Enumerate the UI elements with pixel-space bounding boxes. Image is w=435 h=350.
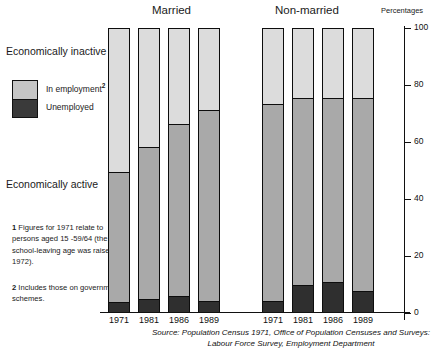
segment-unemployed: [353, 291, 373, 312]
segment-in-employment: [199, 110, 219, 312]
y-tick-0: [404, 313, 411, 314]
legend-label-in-employment: In employment: [46, 84, 102, 94]
legend-swatch-unemployed: [13, 99, 37, 117]
y-tick-label-100: 100: [414, 22, 428, 32]
bar-married-1971: [108, 28, 130, 313]
segment-in-employment: [109, 172, 129, 312]
segment-unemployed: [263, 301, 283, 312]
label-economically-active: Economically active: [6, 178, 98, 190]
x-tick-label-3: 1989: [192, 315, 226, 325]
segment-in-employment: [353, 98, 373, 312]
y-tick-label-0: 0: [414, 307, 419, 317]
y-tick-60: [404, 142, 411, 143]
legend-swatch-in-employment: [13, 81, 37, 99]
segment-unemployed: [169, 296, 189, 312]
legend-item-in-employment: In employment2: [46, 82, 105, 94]
y-tick-label-20: 20: [414, 250, 423, 260]
y-tick-80: [404, 85, 411, 86]
y-tick-label-80: 80: [414, 79, 423, 89]
segment-unemployed: [323, 282, 343, 312]
x-tick-label-2: 1986: [162, 315, 196, 325]
segment-unemployed: [199, 301, 219, 312]
segment-in-employment: [169, 124, 189, 312]
segment-in-employment: [293, 98, 313, 312]
chart-container: Married Non-married Percentages Economic…: [0, 0, 435, 350]
x-tick-label-6: 1986: [316, 315, 350, 325]
source-note: Source: Population Census 1971, Office o…: [148, 328, 434, 349]
x-tick-label-5: 1981: [286, 315, 320, 325]
y-tick-label-40: 40: [414, 193, 423, 203]
segment-unemployed: [139, 299, 159, 312]
segment-in-employment: [139, 147, 159, 312]
bar-non-married-1981: [292, 28, 314, 313]
y-tick-label-60: 60: [414, 136, 423, 146]
bar-married-1986: [168, 28, 190, 313]
x-tick-label-1: 1981: [132, 315, 166, 325]
group-title-married: Married: [152, 4, 191, 16]
x-tick-label-4: 1971: [256, 315, 290, 325]
y-tick-20: [404, 256, 411, 257]
legend-swatch-box: [12, 80, 38, 118]
bar-non-married-1971: [262, 28, 284, 313]
bar-married-1981: [138, 28, 160, 313]
x-axis-line: [100, 312, 410, 313]
bar-married-1989: [198, 28, 220, 313]
y-tick-40: [404, 199, 411, 200]
axis-unit-label: Percentages: [381, 6, 423, 15]
label-economically-inactive: Economically inactive: [6, 45, 106, 57]
segment-in-employment: [263, 104, 283, 312]
x-tick-label-0: 1971: [102, 315, 136, 325]
bar-non-married-1986: [322, 28, 344, 313]
group-title-non-married: Non-married: [275, 4, 339, 16]
segment-unemployed: [293, 285, 313, 312]
segment-in-employment: [323, 98, 343, 312]
y-axis-line: [404, 26, 405, 320]
segment-unemployed: [109, 302, 129, 312]
plot-area: [104, 28, 396, 313]
legend-label-unemployed: Unemployed: [46, 102, 94, 112]
x-tick-label-7: 1989: [346, 315, 380, 325]
bar-non-married-1989: [352, 28, 374, 313]
y-tick-100: [404, 28, 411, 29]
